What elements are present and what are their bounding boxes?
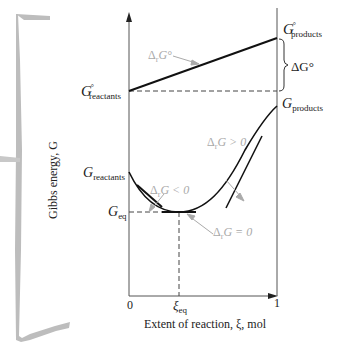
label-g-std-products: G°products [283,22,322,39]
label-g-reactants: Greactants [83,166,125,182]
annotation-positive: ΔrG > 0 [207,136,246,151]
annotation-standard-slope: ΔrG° [148,49,172,64]
label-g-products: Gproducts [282,97,323,113]
standard-gibbs-line [129,38,277,91]
label-delta-g-std: ΔG° [291,60,314,73]
y-axis-label: Gibbs energy, G [46,141,61,219]
x-tick-xi-eq: ξeq [173,299,187,315]
annotation-negative: ΔrG < 0 [150,184,189,199]
x-tick-1: 1 [274,297,280,309]
gibbs-energy-diagram: Gibbs energy, G G°reactants Greactants G… [0,0,338,344]
x-tick-0: 0 [127,299,133,311]
annotation-zero: ΔrG = 0 [213,226,252,241]
y-axis-arrow-icon [126,12,132,22]
delta-g-brace [279,39,288,91]
label-g-eq: Geq [108,205,127,221]
x-axis-label: Extent of reaction, ξ, mol [144,318,266,330]
label-g-std-reactants: G°reactants [81,84,121,101]
